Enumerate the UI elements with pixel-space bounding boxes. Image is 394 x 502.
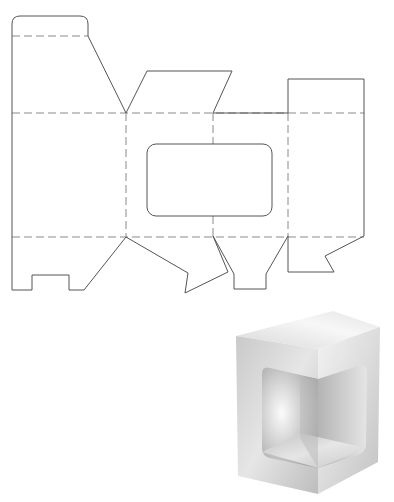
- bottom-right-flap-cut: [288, 236, 364, 272]
- top-flap-center-cut: [126, 71, 232, 113]
- window-cutout: [147, 144, 272, 216]
- bottom-left-flap-cut: [126, 236, 228, 293]
- dieline-flat-layout: [12, 16, 364, 293]
- box-dieline-diagram: [0, 0, 394, 502]
- bottom-left-tab-cut: [12, 237, 126, 290]
- box-3d-render: [236, 311, 380, 494]
- outer-left-top-tab-cut: [12, 16, 126, 290]
